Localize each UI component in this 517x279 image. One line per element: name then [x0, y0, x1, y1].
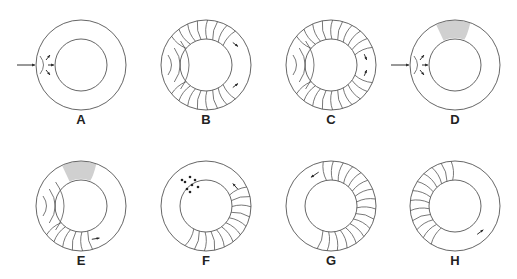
wavefront-line [222, 227, 234, 242]
wavefront-line [72, 232, 76, 251]
wavefront-line [355, 75, 373, 82]
wavefront-line [410, 208, 429, 211]
wavefront-line [343, 88, 352, 105]
panel-h: H [410, 161, 500, 268]
dot [189, 176, 192, 179]
wavefront-line [63, 230, 71, 247]
wavefront-line [218, 88, 227, 105]
wavefront-line [335, 232, 338, 251]
panel-g: G [286, 161, 376, 268]
wavefront-line [413, 215, 431, 221]
dot [191, 184, 194, 187]
inner-ring [180, 180, 232, 232]
panel-label: G [326, 253, 336, 268]
panel-d: D [391, 20, 500, 127]
dot [197, 186, 200, 189]
wavefront-line [322, 91, 326, 110]
refractory-zone [62, 162, 96, 182]
wavefront-line [206, 20, 208, 39]
wavefront-line [229, 218, 246, 227]
inner-ring [55, 180, 107, 232]
stimulus-wavefront [414, 56, 418, 74]
wavefront-line [185, 229, 194, 246]
wavefront-line [331, 91, 333, 110]
wavefront-arc [43, 196, 47, 216]
wavefront-line [338, 22, 343, 40]
panel-label: H [450, 253, 459, 268]
inner-ring [429, 180, 481, 232]
wavefront-line [441, 163, 447, 181]
wavefront-line [179, 86, 191, 101]
wavefront-line [355, 189, 373, 196]
wavefront-line [313, 24, 321, 41]
panel-label: B [201, 112, 210, 127]
panel-label: C [326, 112, 336, 127]
wavefront-line [431, 228, 441, 244]
wavefront-line [213, 90, 218, 108]
wavefront-line [88, 231, 93, 249]
wavefront-line [313, 89, 321, 106]
wavefront-line [352, 180, 368, 191]
refractory-zone [436, 21, 470, 41]
wavefront-line [217, 230, 225, 247]
wavefront-line [188, 24, 196, 41]
dot [189, 191, 192, 194]
panel-c: C [286, 20, 376, 127]
wavefront-line [179, 29, 191, 44]
wavefront-line [340, 230, 347, 248]
wavefront-line [355, 47, 373, 54]
dot [181, 179, 184, 182]
inner-ring [305, 180, 357, 232]
wavefront-line [323, 162, 327, 181]
inner-ring [429, 39, 481, 91]
panel-label: D [450, 112, 459, 127]
wavefront-line [81, 232, 83, 251]
wavefront-line [343, 25, 352, 42]
wavefront-line [204, 232, 206, 251]
panel-a: A [17, 20, 126, 127]
wavefront-line [230, 187, 247, 195]
wavefront-line [331, 20, 333, 39]
wavefront-line [413, 191, 431, 198]
wavefront-line [327, 232, 329, 251]
wavefront-line [352, 39, 367, 50]
panel-e: E [36, 161, 126, 268]
wavefront-line [197, 91, 201, 110]
arrowhead-icon [51, 64, 54, 67]
wavefront-line [451, 161, 453, 180]
wavefront-line [231, 212, 250, 217]
arrowhead-icon [425, 64, 428, 67]
wavefront-line [357, 207, 376, 209]
dot [186, 188, 189, 191]
wavefront-arc [174, 48, 180, 82]
panel-f: F [161, 161, 251, 268]
wavefront-arc [49, 189, 55, 223]
wavefront-arc [299, 48, 305, 82]
wavefront-line [410, 200, 429, 203]
wavefront-line [356, 214, 374, 220]
panel-label: E [77, 253, 86, 268]
wavefront-line [188, 89, 196, 106]
inner-ring [180, 39, 232, 91]
inner-ring [305, 39, 357, 91]
wavefront-line [197, 21, 201, 40]
wavefront-line [304, 29, 316, 44]
wavefront-line [194, 231, 199, 249]
wavefront-line [54, 227, 66, 242]
wavefront-arc [293, 55, 297, 75]
wavefront-line [206, 91, 208, 110]
panel-label: A [76, 112, 86, 127]
wavefront-line [322, 21, 326, 40]
panel-label: F [202, 253, 210, 268]
wavefront-line [338, 163, 343, 181]
wavefront-line [213, 22, 218, 40]
wavefront-line [417, 182, 433, 192]
dot [194, 179, 197, 182]
wavefront-line [232, 205, 251, 207]
arrowhead-icon [32, 64, 35, 67]
wavefront-line [357, 199, 376, 202]
wavefront-line [304, 86, 316, 101]
ring-reentry-diagram: ABCDEFGH [0, 0, 517, 279]
stimulus-wavefront [40, 56, 44, 74]
wavefront-line [211, 232, 215, 251]
